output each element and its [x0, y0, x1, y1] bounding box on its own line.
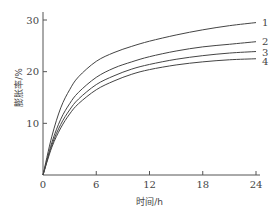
y-axis-title: 膨胀率/% — [13, 68, 24, 107]
series-1-label: 1 — [262, 17, 268, 28]
x-tick-label: 18 — [196, 179, 209, 190]
axes: 10203006121824时间/h膨胀率/% — [13, 12, 262, 207]
line-chart: 10203006121824时间/h膨胀率/% 1234 — [0, 0, 276, 214]
curves — [43, 23, 256, 175]
x-tick-label: 0 — [40, 179, 46, 190]
series-2-line — [43, 42, 256, 175]
y-tick-label: 10 — [26, 118, 39, 129]
y-tick-label: 20 — [26, 66, 39, 77]
x-axis-title: 时间/h — [136, 196, 163, 207]
series-4-label: 4 — [262, 56, 268, 67]
series-2-label: 2 — [262, 36, 268, 47]
x-tick-label: 12 — [143, 179, 156, 190]
labels: 1234 — [262, 17, 268, 67]
x-tick-label: 6 — [93, 179, 99, 190]
series-1-line — [43, 23, 256, 175]
series-4-line — [43, 59, 256, 175]
x-tick-label: 24 — [250, 179, 263, 190]
y-tick-label: 30 — [26, 15, 39, 26]
